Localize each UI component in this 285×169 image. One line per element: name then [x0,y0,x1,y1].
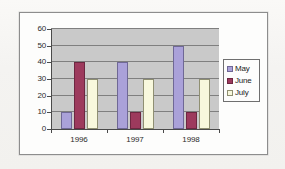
x-axis-tick [163,129,164,133]
legend-swatch-icon [227,78,233,84]
bar-june-1996[interactable] [74,62,85,129]
y-axis-tick-label: 20 [26,92,46,100]
bar-may-1998[interactable] [173,46,184,129]
bar-june-1997[interactable] [130,112,141,129]
y-axis-tick-label: 60 [26,25,46,33]
plot-area [51,29,219,129]
legend-item-june[interactable]: June [227,75,257,87]
x-axis-category-label: 1997 [107,135,163,144]
y-axis-tick-label: 50 [26,42,46,50]
y-axis-tick [47,79,51,80]
x-axis-tick [219,129,220,133]
y-axis-tick-label: 40 [26,58,46,66]
y-axis-tick [47,62,51,63]
gridline [51,28,219,29]
chart-frame: 0102030405060 199619971998 MayJuneJuly [19,12,268,155]
y-axis-tick [47,96,51,97]
x-axis-tick [51,129,52,133]
bar-june-1998[interactable] [186,112,197,129]
gridline [51,45,219,46]
bar-july-1997[interactable] [143,79,154,129]
x-axis-category-label: 1996 [51,135,107,144]
bar-july-1996[interactable] [87,79,98,129]
legend-label: May [235,65,250,73]
y-axis-line [51,29,52,130]
legend-swatch-icon [227,90,233,96]
x-axis-tick [107,129,108,133]
legend-swatch-icon [227,66,233,72]
legend-label: July [235,89,248,97]
y-axis-tick-label: 30 [26,75,46,83]
x-axis-category-label: 1998 [163,135,219,144]
y-axis-tick [47,112,51,113]
chart-legend: MayJuneJuly [223,59,260,102]
y-axis-tick-label: 0 [26,125,46,133]
legend-label: June [235,77,252,85]
bar-may-1997[interactable] [117,62,128,129]
y-axis-tick-label: 10 [26,108,46,116]
legend-item-may[interactable]: May [227,63,257,75]
y-axis-tick [47,46,51,47]
legend-item-july[interactable]: July [227,87,257,99]
bar-may-1996[interactable] [61,112,72,129]
y-axis-tick [47,29,51,30]
x-axis-line [51,129,219,130]
bar-july-1998[interactable] [199,79,210,129]
